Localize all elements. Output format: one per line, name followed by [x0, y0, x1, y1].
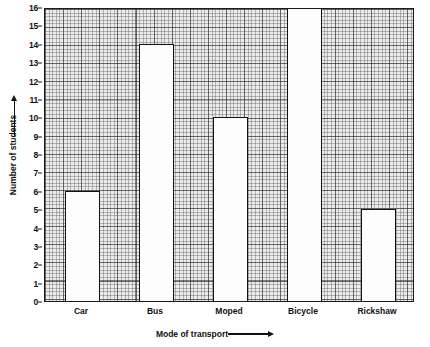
y-axis-tick-mark — [38, 118, 42, 119]
y-axis-tick-mark — [38, 302, 42, 303]
bar-bus — [139, 44, 174, 301]
y-axis-tick-label: 13 — [29, 58, 38, 68]
x-axis-label-car: Car — [74, 306, 88, 316]
y-axis-tick-mark — [38, 99, 42, 100]
y-axis-tick-mark — [38, 26, 42, 27]
y-axis-tick-mark — [38, 81, 42, 82]
y-axis-tick-mark — [38, 8, 42, 9]
y-axis-tick-mark — [38, 63, 42, 64]
y-axis-tick-label: 11 — [29, 95, 38, 105]
y-axis-tick-label: 12 — [29, 77, 38, 87]
x-axis-label-bicycle: Bicycle — [288, 306, 318, 316]
y-axis-tick-mark — [38, 210, 42, 211]
y-axis-tick-mark — [38, 265, 42, 266]
bar-moped — [213, 117, 248, 301]
y-axis-tick-mark — [38, 228, 42, 229]
bar-car — [65, 191, 100, 301]
y-axis-tick-mark — [38, 136, 42, 137]
y-axis-tick-mark — [38, 155, 42, 156]
bar-bicycle — [287, 8, 322, 301]
y-axis-tick-label: 16 — [29, 3, 38, 13]
y-axis-tick-mark — [38, 44, 42, 45]
y-axis-tick-mark — [38, 191, 42, 192]
x-axis-label-bus: Bus — [147, 306, 163, 316]
y-axis-tick-mark — [38, 283, 42, 284]
x-axis-label-moped: Moped — [215, 306, 242, 316]
chart-plot-area — [44, 8, 414, 302]
x-axis-arrow-shaft — [228, 333, 268, 334]
y-axis-tick-label: 15 — [29, 21, 38, 31]
y-axis-ticks: 012345678910111213141516 — [0, 8, 42, 302]
y-axis-tick-label: 10 — [29, 113, 38, 123]
x-axis-title: Mode of transport — [0, 328, 430, 339]
bar-rickshaw — [361, 209, 396, 301]
x-axis-category-labels: CarBusMopedBicycleRickshaw — [44, 306, 414, 322]
y-axis-tick-label: 14 — [29, 40, 38, 50]
x-axis-arrow-icon — [228, 330, 274, 338]
y-axis-tick-mark — [38, 173, 42, 174]
x-axis-arrow-head — [268, 331, 274, 337]
x-axis-title-text: Mode of transport — [156, 329, 228, 339]
x-axis-label-rickshaw: Rickshaw — [357, 306, 396, 316]
y-axis-tick-mark — [38, 246, 42, 247]
